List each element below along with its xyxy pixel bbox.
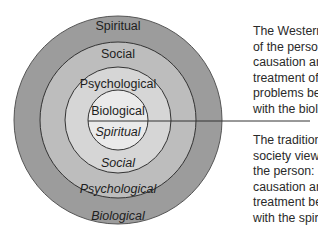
label-traditional-psychological: Psychological	[80, 182, 158, 196]
label-traditional-social: Social	[101, 156, 136, 170]
traditional-line: The traditional	[253, 133, 318, 149]
label-western-biological: Biological	[91, 104, 145, 118]
traditional-view-description: The traditional society view of the pers…	[253, 133, 318, 227]
label-traditional-biological: Biological	[91, 209, 146, 223]
label-western-social: Social	[101, 47, 135, 61]
western-line: causation and	[253, 55, 318, 71]
western-line: problems begins	[253, 86, 318, 102]
inner-circle	[88, 90, 148, 150]
western-line: The Western view	[253, 24, 318, 40]
western-line: of the person:	[253, 40, 318, 56]
label-western-spiritual: Spiritual	[95, 19, 140, 33]
traditional-line: treatment begins	[253, 195, 318, 211]
traditional-line: causation and	[253, 180, 318, 196]
western-line: with the biological	[253, 102, 318, 118]
western-line: treatment of	[253, 71, 318, 87]
traditional-line: society view of	[253, 149, 318, 165]
traditional-line: the person:	[253, 164, 318, 180]
traditional-line: with the spiritual	[253, 211, 318, 227]
label-traditional-spiritual: Spiritual	[95, 125, 141, 139]
label-western-psychological: Psychological	[80, 77, 156, 91]
western-view-description: The Western view of the person: causatio…	[253, 24, 318, 118]
